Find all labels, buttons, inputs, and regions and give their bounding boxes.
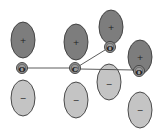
atom-label: O	[107, 43, 114, 53]
atom-o-left: O	[17, 63, 28, 74]
minus-sign: −	[137, 106, 144, 115]
minus-sign: −	[20, 94, 27, 103]
plus-sign: +	[20, 36, 27, 45]
atom-o-top-right: O	[105, 42, 116, 53]
plus-sign: +	[137, 53, 144, 62]
minus-sign: −	[106, 80, 113, 89]
plus-sign: +	[73, 38, 80, 47]
orbital-diagram: O C O O + − + − + − + −	[0, 0, 161, 137]
atom-label: C	[72, 64, 78, 74]
atom-o-right: O	[134, 66, 145, 77]
atom-label: O	[136, 67, 143, 77]
atom-c-center: C	[70, 63, 81, 74]
bond-c-o-right	[80, 69, 134, 70]
minus-sign: −	[73, 96, 80, 105]
atom-label: O	[19, 64, 26, 74]
plus-sign: +	[108, 23, 115, 32]
